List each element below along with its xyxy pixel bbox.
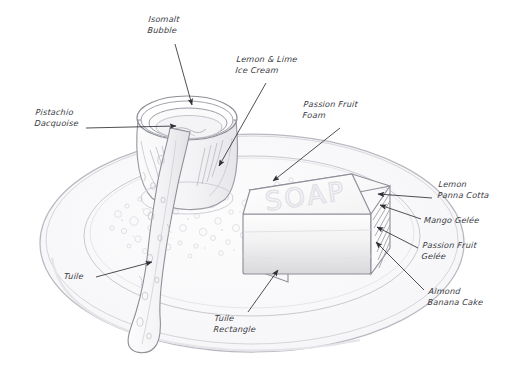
label-tuile-rectangle: Tuile Rectangle [213,313,257,334]
label-almond-banana-cake: Almond Banana Cake [427,286,485,307]
layered-bar: SOAP [243,174,390,282]
label-tuile: Tuile [64,271,85,282]
label-lemon-panna-cotta: Lemon Panna Cotta [437,179,491,200]
bar-front-face [243,214,371,274]
glass-tumbler [137,96,238,214]
label-pistachio-dacquoise: Pistachio Dacquoise [34,107,80,128]
label-mango-gelee: Mango Gelée [424,215,480,226]
label-lemon-lime-ice-cream: Lemon & Lime Ice Cream [235,54,298,75]
label-passion-fruit-gelee: Passion Fruit Gelée [421,240,477,261]
label-passion-fruit-foam: Passion Fruit Foam [302,99,358,120]
dessert-sketch-figure: SOAP Isomalt BubbleLemon & Lime Ice Crea… [0,0,515,377]
label-isomalt-bubble: Isomalt Bubble [147,14,180,35]
